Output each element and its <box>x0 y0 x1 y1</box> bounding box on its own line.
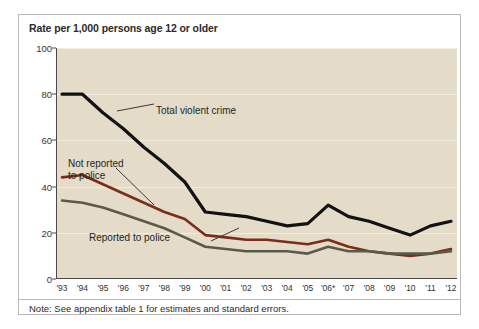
x-axis-tick-label: '08 <box>364 283 375 293</box>
x-axis-tick-label: '07 <box>343 283 354 293</box>
y-axis-tick-label: 80 <box>41 89 52 100</box>
x-axis-tick-label: '10 <box>405 283 416 293</box>
chart-figure: Rate per 1,000 persons age 12 or older 0… <box>18 14 461 315</box>
y-axis-tick-label: 40 <box>41 181 52 192</box>
x-axis-tick-label: '03 <box>261 283 272 293</box>
x-axis-tick-label: '11 <box>425 283 435 293</box>
annotation-reported-to-police: Reported to police <box>89 232 170 244</box>
annotation-not-reported-to-police: Not reported to police <box>68 158 124 182</box>
leader-line-total <box>117 104 154 111</box>
x-axis-tick-label: '94 <box>77 283 88 293</box>
series-line <box>62 201 451 254</box>
note-divider <box>19 299 460 300</box>
x-axis-tick-label: '01 <box>220 283 231 293</box>
chart-note: Note: See appendix table 1 for estimates… <box>29 303 289 314</box>
x-axis-tick-label: '98 <box>159 283 170 293</box>
plot-wrapper: Total violent crime Not reported to poli… <box>56 48 457 279</box>
x-axis-tick-label: '95 <box>97 283 108 293</box>
annotation-total-violent-crime: Total violent crime <box>156 105 236 117</box>
page-title: Rate per 1,000 persons age 12 or older <box>29 22 218 34</box>
x-axis-tick-label: '00 <box>200 283 211 293</box>
x-axis-tick-label: '99 <box>179 283 190 293</box>
y-axis-tick-label: 20 <box>41 227 52 238</box>
x-axis: '93'94'95'96'97'98'99'00'01'02'03'04'05'… <box>56 281 457 297</box>
x-axis-tick-label: '09 <box>384 283 395 293</box>
x-axis-tick-label: '05 <box>302 283 313 293</box>
x-axis-tick-label: '93 <box>56 283 67 293</box>
y-axis-tick-label: 60 <box>41 135 52 146</box>
x-axis-tick-label: '96 <box>118 283 129 293</box>
x-axis-tick-label: '04 <box>282 283 293 293</box>
x-axis-tick-label: '12 <box>445 283 456 293</box>
y-axis: 020406080100 <box>19 48 52 279</box>
x-axis-tick-label: '02 <box>241 283 252 293</box>
y-axis-tick-label: 100 <box>36 43 52 54</box>
x-axis-tick-label: '06* <box>321 283 335 293</box>
x-axis-tick-label: '97 <box>138 283 149 293</box>
